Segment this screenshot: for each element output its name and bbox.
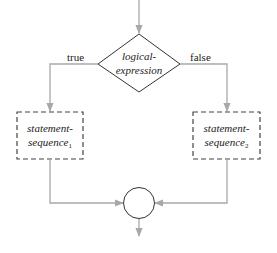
true-branch-label: true: [67, 52, 84, 63]
false-block-subscript: 2: [245, 142, 249, 150]
decision-line-1: logical-: [99, 49, 179, 63]
false-block-line-1: statement-: [193, 121, 260, 135]
join-node-circle: [124, 188, 155, 219]
true-block-label: statement- sequence1: [17, 121, 83, 153]
true-block-subscript: 1: [68, 142, 72, 150]
decision-line-2: expression: [99, 63, 179, 77]
false-block-line-2: sequence2: [193, 135, 260, 153]
false-branch-label: false: [190, 52, 211, 63]
false-block-label: statement- sequence2: [193, 121, 260, 153]
true-block-line-1: statement-: [17, 121, 83, 135]
true-block-word: sequence: [28, 136, 68, 148]
decision-label: logical- expression: [99, 49, 179, 77]
true-block-line-2: sequence1: [17, 135, 83, 153]
true-branch-arrow: [50, 64, 98, 111]
false-merge-arrow: [155, 159, 227, 203]
false-block-word: sequence: [205, 136, 245, 148]
true-merge-arrow: [50, 159, 123, 203]
false-branch-arrow: [180, 64, 227, 111]
